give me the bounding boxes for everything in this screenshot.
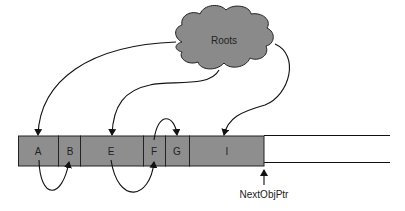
heap-diagram: Roots A B E F G I NextObjPtr — [0, 0, 405, 211]
cell-e-label: E — [108, 146, 115, 157]
arrow-roots-to-a — [38, 42, 176, 135]
cell-b-label: B — [67, 146, 74, 157]
next-obj-ptr-label: NextObjPtr — [240, 189, 290, 200]
cell-f-label: F — [151, 146, 157, 157]
cell-g-label: G — [173, 146, 181, 157]
roots-cloud: Roots — [176, 5, 274, 68]
cell-i-label: I — [226, 146, 229, 157]
heap-cells: A B E F G I — [19, 136, 265, 166]
cell-a-label: A — [35, 146, 42, 157]
arrow-roots-to-e — [112, 70, 219, 135]
roots-label: Roots — [211, 35, 237, 46]
